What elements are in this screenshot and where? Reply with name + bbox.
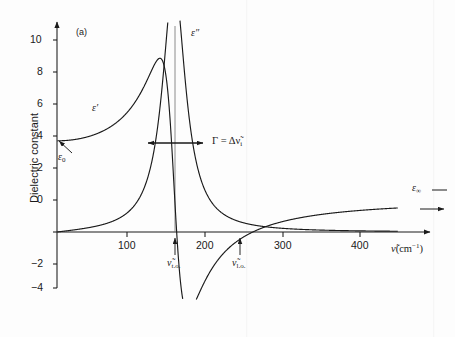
eps-double-prime-label: ε″ bbox=[191, 28, 199, 38]
eps-prime-label: ε′ bbox=[92, 103, 98, 113]
y-tick-0: 0 bbox=[37, 194, 43, 205]
y-tick-2: 2 bbox=[37, 162, 43, 173]
y-tick-neg4: −4 bbox=[31, 282, 43, 293]
eps-double-mark: ″ bbox=[195, 27, 199, 38]
x-tick-200: 200 bbox=[196, 240, 214, 251]
nu-lo-subscript: l.o. bbox=[236, 262, 245, 270]
eps-zero-label: ε0 bbox=[58, 152, 65, 164]
y-tick-10: 10 bbox=[30, 34, 42, 45]
eps-prime-mark: ′ bbox=[96, 102, 98, 113]
x-tick-100: 100 bbox=[118, 240, 136, 251]
gamma-label: Γ = Δν̃i bbox=[212, 136, 242, 148]
x-axis-units: (cm bbox=[396, 243, 412, 254]
curve-eps-double-prime bbox=[57, 21, 397, 232]
curve-eps-prime bbox=[57, 58, 397, 299]
y-axis bbox=[53, 22, 57, 288]
x-axis-title: ν̃(cm−1) bbox=[391, 243, 423, 255]
eps-infinity-label: ε∞ bbox=[412, 183, 421, 195]
y-tick-neg2: −2 bbox=[31, 258, 43, 269]
gamma-subscript: i bbox=[240, 140, 242, 148]
y-tick-8: 8 bbox=[37, 66, 43, 77]
figure-panel: (a) Dielectric constant 10 8 6 4 2 0 −2 … bbox=[0, 0, 455, 337]
nu-to-subscript: t.o. bbox=[171, 262, 180, 270]
y-tick-4: 4 bbox=[37, 130, 43, 141]
y-tick-6: 6 bbox=[37, 98, 43, 109]
eps-infinity-subscript: ∞ bbox=[416, 187, 421, 195]
gamma-expression: Γ = Δν̃ bbox=[212, 135, 240, 146]
nu-to-label: ν̃t.o. bbox=[167, 258, 180, 270]
eps-zero-subscript: 0 bbox=[62, 156, 66, 164]
x-axis bbox=[57, 232, 430, 237]
scan-artifacts bbox=[246, 0, 434, 337]
x-axis-paren: ) bbox=[419, 243, 423, 254]
x-tick-300: 300 bbox=[274, 240, 292, 251]
chart-canvas bbox=[0, 0, 455, 337]
x-tick-400: 400 bbox=[351, 240, 369, 251]
panel-id-label: (a) bbox=[76, 28, 87, 37]
nu-lo-label: ν̃l.o. bbox=[232, 258, 245, 270]
